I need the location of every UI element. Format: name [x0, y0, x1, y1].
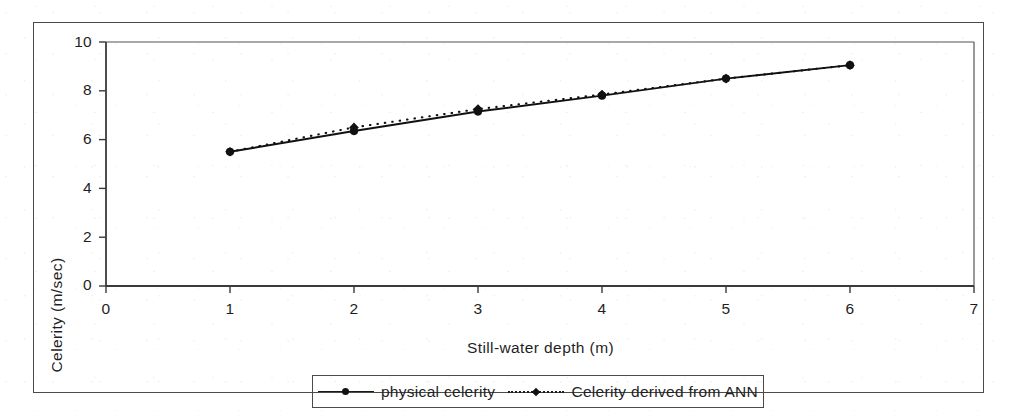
x-tick-label-7: 7 [960, 300, 988, 318]
y-axis-ticks [99, 42, 106, 286]
legend-key-dotted-diamond-icon [508, 386, 564, 398]
legend-label-physical-celerity: physical celerity [381, 383, 496, 401]
x-tick-label-6: 6 [836, 300, 864, 318]
y-tick-label-10: 10 [66, 33, 92, 51]
legend-label-celerity-ann: Celerity derived from ANN [571, 383, 758, 401]
y-tick-label-4: 4 [66, 179, 92, 197]
y-axis-title: Celerity (m/sec) [48, 165, 66, 419]
y-tick-label-6: 6 [66, 130, 92, 148]
x-tick-label-0: 0 [92, 300, 120, 318]
x-axis-title: Still-water depth (m) [34, 339, 1013, 357]
chart-legend: physical celerity Celerity derived from … [312, 375, 764, 408]
x-tick-label-1: 1 [216, 300, 244, 318]
y-tick-label-0: 0 [66, 276, 92, 294]
data-point [721, 74, 731, 84]
x-tick-label-3: 3 [464, 300, 492, 318]
data-point [845, 60, 855, 70]
x-tick-label-5: 5 [712, 300, 740, 318]
y-tick-label-2: 2 [66, 228, 92, 246]
plot-frame [106, 42, 974, 286]
x-axis-ticks [106, 286, 974, 293]
y-tick-label-8: 8 [66, 81, 92, 99]
legend-key-solid-circle-icon [318, 386, 374, 398]
x-tick-label-4: 4 [588, 300, 616, 318]
x-tick-label-2: 2 [340, 300, 368, 318]
figure-frame: 10 8 6 4 2 0 0 1 2 3 4 5 6 7 Celerity (m… [33, 22, 984, 393]
data-point [225, 147, 235, 157]
series-physical-celerity [226, 61, 854, 156]
celerity-line-chart: 10 8 6 4 2 0 0 1 2 3 4 5 6 7 Celerity (m… [34, 23, 983, 392]
legend-entry-celerity-ann: Celerity derived from ANN [508, 383, 758, 401]
legend-entry-physical-celerity: physical celerity [318, 383, 496, 401]
